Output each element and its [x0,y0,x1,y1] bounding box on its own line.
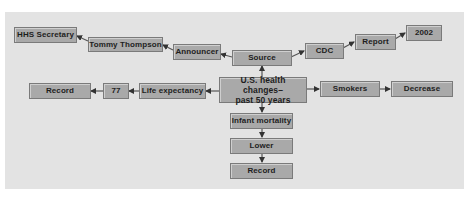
node-label: Infant mortality [232,116,291,126]
node-label: HHS Secretary [17,30,74,40]
node-label: Record [46,86,74,96]
node-label: Lower [249,141,273,151]
node-year-2002: 2002 [406,25,442,41]
node-label: Record [247,166,275,176]
node-label-line2: past 50 years [235,95,290,105]
node-life-expectancy: Life expectancy [139,83,206,99]
node-cdc: CDC [305,43,344,59]
node-label: Source [248,53,276,63]
node-smokers: Smokers [320,81,380,97]
node-report: Report [355,34,396,50]
node-label-line1: U.S. health changes– [220,75,306,95]
node-label: Report [362,37,388,47]
node-label: 77 [111,86,120,96]
node-record-left: Record [29,83,91,99]
node-record-bottom: Record [230,163,293,179]
node-label: Decrease [404,84,440,94]
node-infant-mortality: Infant mortality [230,113,293,129]
node-center-us-health-changes: U.S. health changes– past 50 years [219,77,307,103]
node-lower: Lower [230,138,293,154]
node-label: 2002 [415,28,433,38]
node-label: Life expectancy [142,86,204,96]
node-source: Source [232,50,292,66]
node-label: Announcer [175,47,218,57]
node-value-77: 77 [103,83,129,99]
node-label: Smokers [333,84,368,94]
node-announcer: Announcer [173,44,221,60]
node-decrease: Decrease [391,81,453,97]
node-label: Tommy Thompson [89,40,161,50]
node-hhs-secretary: HHS Secretary [14,27,77,43]
node-tommy-thompson: Tommy Thompson [88,37,163,52]
node-label: CDC [316,46,334,56]
